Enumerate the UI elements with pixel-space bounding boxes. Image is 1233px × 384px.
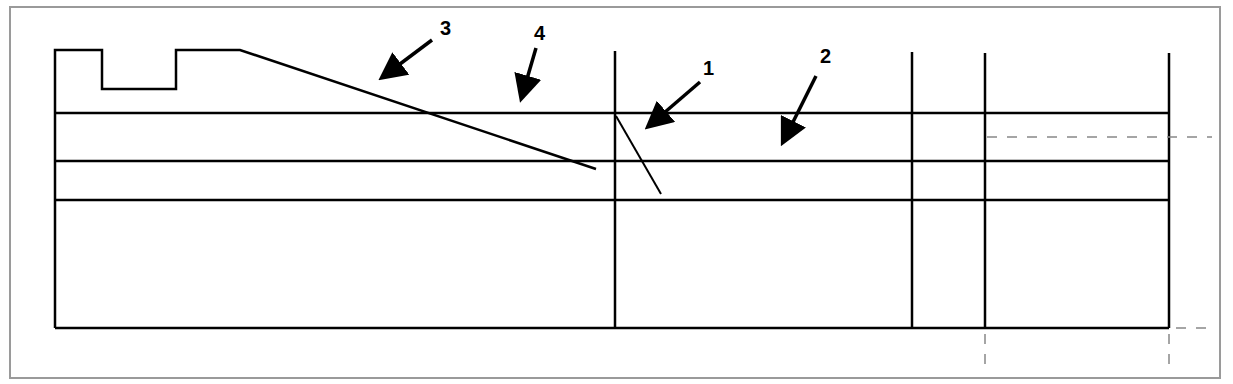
arrow-1-icon — [650, 82, 700, 125]
arrow-2-icon — [784, 76, 816, 140]
diagonal-line-1 — [616, 116, 661, 194]
callout-label-1: 1 — [703, 57, 714, 79]
diagram-canvas: 3 4 1 2 — [0, 0, 1233, 384]
callout-label-3: 3 — [440, 17, 451, 39]
profile-outline — [55, 50, 1169, 328]
horizontal-layers — [55, 113, 1169, 200]
arrow-4-icon — [522, 48, 536, 96]
arrow-3-icon — [384, 40, 432, 76]
top-profile-with-notch — [55, 50, 596, 328]
callout-label-4: 4 — [534, 22, 546, 44]
callout-label-2: 2 — [820, 45, 831, 67]
callout-arrows — [384, 40, 816, 140]
dashed-extensions — [985, 137, 1212, 368]
vertical-dividers — [615, 51, 1169, 328]
